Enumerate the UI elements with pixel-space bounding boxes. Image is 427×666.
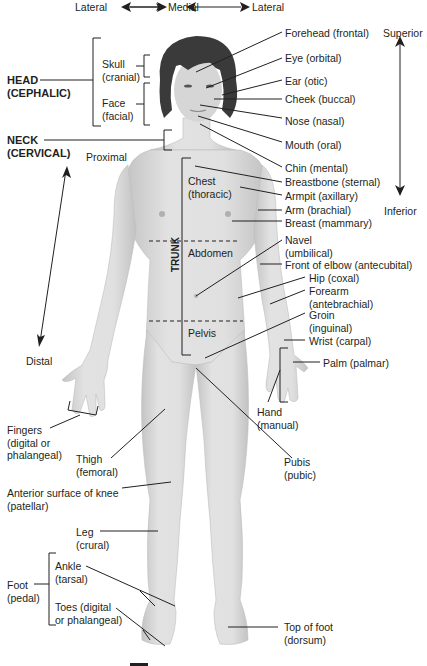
label-breast: Breast (mammary) [285,217,372,230]
direction-proximal: Proximal [86,151,127,164]
label-fingers: Fingers (digital or phalangeal) [7,424,62,462]
label-forehead: Forehead (frontal) [285,27,369,40]
direction-lateral-right: Lateral [252,1,284,14]
direction-superior: Superior [383,27,423,40]
label-foot: Foot (pedal) [7,579,40,604]
label-eye: Eye (orbital) [285,52,342,65]
label-hip: Hip (coxal) [309,272,359,285]
label-thigh: Thigh (femoral) [76,453,118,478]
direction-inferior: Inferior [384,205,417,218]
label-skull: Skull (cranial) [102,58,140,83]
label-groin: Groin (inguinal) [309,309,352,334]
label-pubis: Pubis (pubic) [284,456,316,481]
region-neck: NECK (CERVICAL) [7,134,70,160]
direction-lateral-left: Lateral [75,1,107,14]
label-knee: Anterior surface of knee (patellar) [7,487,118,512]
label-ankle: Ankle (tarsal) [55,560,88,585]
label-armpit: Armpit (axillary) [285,190,358,203]
label-top-of-foot: Top of foot (dorsum) [284,621,333,646]
label-face: Face (facial) [102,97,134,122]
label-toes: Toes (digital or phalangeal) [55,601,122,626]
label-abdomen: Abdomen [188,247,233,260]
label-front-of-elbow: Front of elbow (antecubital) [285,259,412,272]
label-forearm: Forearm (antebrachial) [309,285,373,310]
direction-distal: Distal [26,355,52,368]
region-trunk: TRUNK [170,237,181,272]
label-cheek: Cheek (buccal) [285,93,356,106]
label-ear: Ear (otic) [285,75,328,88]
direction-medial: Medial [168,1,199,14]
label-palm: Palm (palmar) [323,357,389,370]
label-mouth: Mouth (oral) [285,139,342,152]
label-wrist: Wrist (carpal) [309,335,371,348]
label-nose: Nose (nasal) [285,115,345,128]
label-arm: Arm (brachial) [285,204,351,217]
label-pelvis: Pelvis [188,327,216,340]
region-head: HEAD (CEPHALIC) [7,74,71,100]
label-hand: Hand (manual) [257,406,298,431]
label-chin: Chin (mental) [285,162,348,175]
label-navel: Navel (umbilical) [285,234,333,259]
label-breastbone: Breastbone (sternal) [285,176,380,189]
label-chest: Chest (thoracic) [188,175,232,200]
anatomy-diagram: Lateral Medial Lateral Superior Inferior… [0,0,427,666]
body-silhouette [62,118,308,645]
label-leg: Leg (crural) [76,526,109,551]
